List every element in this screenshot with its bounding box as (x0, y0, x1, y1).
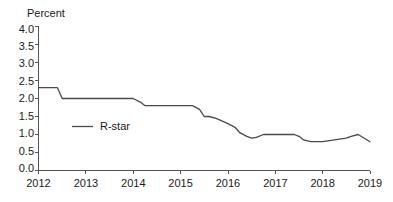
y-tick-label: 4.0 (19, 23, 34, 35)
x-tick-label: 2015 (168, 177, 192, 189)
y-axis-tick-labels: 4.0 3.5 3.0 2.5 2.0 1.5 1.0 0.5 0.0 (19, 23, 34, 174)
x-axis-tick-marks (39, 171, 371, 175)
x-axis-tick-labels: 2012 2013 2014 2015 2016 2017 2018 2019 (26, 177, 382, 189)
y-tick-label: 3.0 (19, 57, 34, 69)
x-tick-label: 2019 (358, 177, 382, 189)
y-tick-label: 0.0 (19, 162, 34, 174)
x-tick-label: 2016 (216, 177, 240, 189)
y-tick-label: 2.5 (19, 75, 34, 87)
x-tick-label: 2018 (310, 177, 334, 189)
y-tick-label: 0.5 (19, 145, 34, 157)
y-tick-label: 2.0 (19, 92, 34, 104)
x-tick-label: 2012 (26, 177, 50, 189)
line-chart: Percent 4.0 3.5 3.0 2.5 2.0 1.5 1.0 0.5 … (0, 0, 393, 202)
y-axis-tick-marks (35, 27, 39, 171)
y-tick-label: 1.0 (19, 127, 34, 139)
y-axis-title: Percent (27, 7, 65, 19)
chart-screenshot: Percent 4.0 3.5 3.0 2.5 2.0 1.5 1.0 0.5 … (0, 0, 393, 202)
y-tick-label: 3.5 (19, 40, 34, 52)
chart-legend: R-star (72, 120, 130, 132)
y-tick-label: 1.5 (19, 110, 34, 122)
x-tick-label: 2014 (121, 177, 145, 189)
series-line-r-star (39, 88, 371, 142)
x-tick-label: 2013 (74, 177, 98, 189)
x-tick-label: 2017 (263, 177, 287, 189)
legend-label-r-star: R-star (100, 120, 130, 132)
